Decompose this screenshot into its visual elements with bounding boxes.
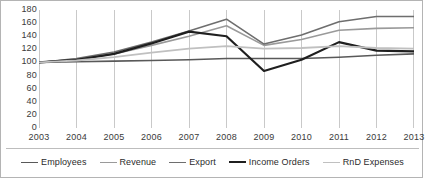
chart-legend: EmployeesRevenueExportIncome OrdersRnD E… xyxy=(6,151,419,173)
legend-line-icon xyxy=(229,161,246,163)
legend-line-icon xyxy=(100,162,117,163)
legend-divider xyxy=(6,148,419,149)
x-axis-tick-label: 2012 xyxy=(360,132,394,142)
y-axis-tick-label: 140 xyxy=(3,31,37,40)
y-axis-tick-label: 120 xyxy=(3,44,37,53)
chart-container: 020406080100120140160180 200320042005200… xyxy=(0,0,423,178)
y-axis-tick-label: 100 xyxy=(3,57,37,66)
legend-line-icon xyxy=(323,162,340,163)
x-axis-labels: 2003200420052006200720082009201020112012… xyxy=(39,132,414,146)
x-axis-tick-label: 2004 xyxy=(60,132,94,142)
legend-item[interactable]: Income Orders xyxy=(229,157,310,167)
x-axis-tick-label: 2009 xyxy=(247,132,281,142)
legend-line-icon xyxy=(21,162,38,163)
x-axis-tick-label: 2007 xyxy=(172,132,206,142)
x-axis-tick-label: 2013 xyxy=(397,132,425,142)
x-axis-tick-label: 2005 xyxy=(97,132,131,142)
y-axis-tick-label: 160 xyxy=(3,18,37,27)
y-axis-tick-label: 180 xyxy=(3,5,37,14)
plot-area xyxy=(39,10,414,128)
legend-item[interactable]: Export xyxy=(169,157,216,167)
y-axis-tick-label: 80 xyxy=(3,71,37,80)
legend-item[interactable]: Employees xyxy=(21,157,86,167)
x-axis-tick-label: 2010 xyxy=(285,132,319,142)
x-axis-tick-label: 2008 xyxy=(210,132,244,142)
y-axis-tick-label: 20 xyxy=(3,110,37,119)
legend-label: Employees xyxy=(41,157,86,167)
x-axis-tick-label: 2006 xyxy=(135,132,169,142)
series-lines xyxy=(39,10,414,128)
y-axis-tick-label: 60 xyxy=(3,84,37,93)
y-axis-tick-label: 0 xyxy=(3,123,37,132)
legend-label: Revenue xyxy=(120,157,157,167)
legend-label: Income Orders xyxy=(249,157,310,167)
legend-label: RnD Expenses xyxy=(343,157,404,167)
x-axis-tick-label: 2011 xyxy=(322,132,356,142)
legend-item[interactable]: Revenue xyxy=(100,157,157,167)
y-axis-tick-label: 40 xyxy=(3,97,37,106)
legend-item[interactable]: RnD Expenses xyxy=(323,157,404,167)
x-axis-tick-label: 2003 xyxy=(22,132,56,142)
y-axis-labels: 020406080100120140160180 xyxy=(1,1,37,137)
legend-label: Export xyxy=(189,157,216,167)
legend-line-icon xyxy=(169,162,186,163)
